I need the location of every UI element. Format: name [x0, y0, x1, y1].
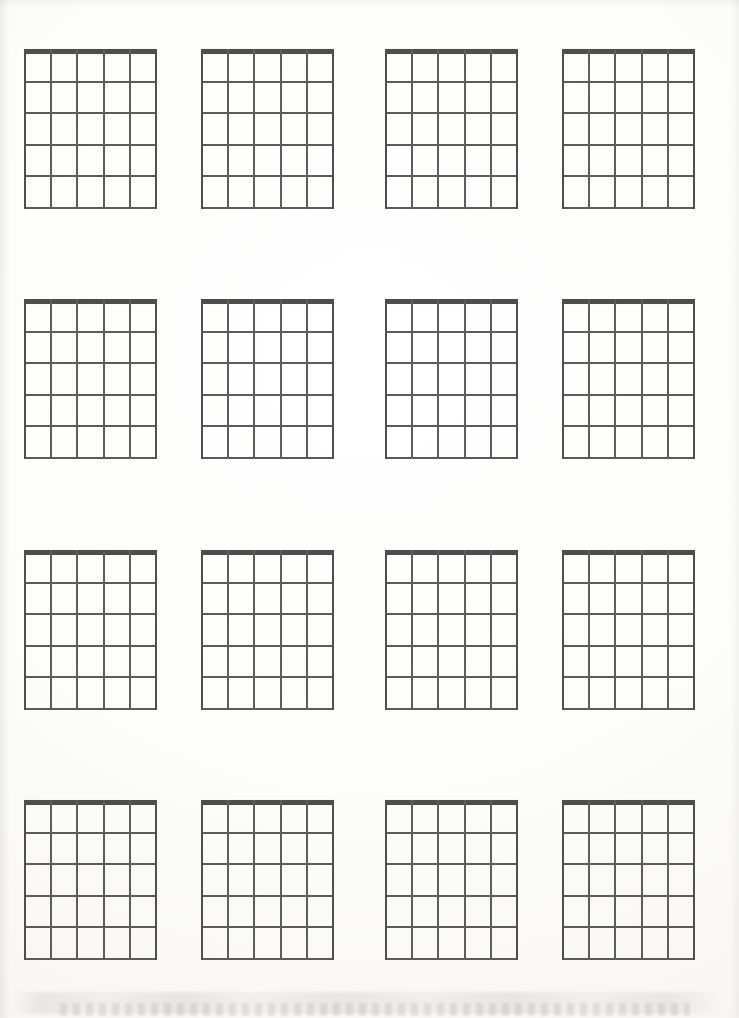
chord-diagram[interactable] [385, 550, 518, 710]
chord-string-line [588, 49, 590, 209]
chord-string-line [385, 49, 387, 209]
chord-string-line [332, 550, 334, 710]
chord-string-line [280, 800, 282, 960]
chord-diagram[interactable] [562, 49, 695, 209]
chord-string-line [24, 550, 26, 710]
chord-string-line [103, 299, 105, 459]
chord-diagram[interactable] [24, 299, 157, 459]
chord-diagram[interactable] [24, 800, 157, 960]
chord-string-line [411, 800, 413, 960]
chord-fret-line [24, 863, 157, 865]
chord-string-line [588, 550, 590, 710]
chord-string-line [24, 49, 26, 209]
chord-fret-line [385, 676, 518, 678]
chord-fret-line [201, 207, 334, 209]
chord-fret-line [201, 645, 334, 647]
chord-diagram[interactable] [385, 800, 518, 960]
chord-fret-line [562, 175, 695, 177]
chord-diagram[interactable] [24, 49, 157, 209]
chord-fret-line [385, 112, 518, 114]
chord-string-line [201, 49, 203, 209]
chord-fret-line [24, 331, 157, 333]
chord-nut [385, 550, 518, 555]
chord-string-line [437, 49, 439, 209]
chord-chart-grid [0, 0, 739, 1018]
chord-string-line [667, 299, 669, 459]
chord-fret-line [24, 362, 157, 364]
chord-fret-line [562, 457, 695, 459]
chord-fret-line [385, 425, 518, 427]
chord-string-line [437, 800, 439, 960]
chord-fret-line [562, 207, 695, 209]
chord-fret-line [24, 144, 157, 146]
chord-nut [562, 299, 695, 304]
chord-fret-line [24, 926, 157, 928]
chord-fret-line [385, 613, 518, 615]
chord-string-line [464, 299, 466, 459]
chord-diagram[interactable] [562, 800, 695, 960]
chord-nut [562, 49, 695, 54]
chord-string-line [129, 800, 131, 960]
chord-string-line [614, 299, 616, 459]
chord-diagram[interactable] [201, 550, 334, 710]
chord-string-line [155, 49, 157, 209]
chord-fret-line [201, 958, 334, 960]
chord-string-line [201, 550, 203, 710]
chord-fret-line [24, 112, 157, 114]
chord-string-line [76, 800, 78, 960]
chord-string-line [437, 550, 439, 710]
chord-string-line [306, 550, 308, 710]
chord-fret-line [562, 425, 695, 427]
chord-string-line [490, 49, 492, 209]
chord-string-line [693, 800, 695, 960]
chord-string-line [332, 800, 334, 960]
chord-fret-line [562, 958, 695, 960]
chord-string-line [103, 800, 105, 960]
chord-diagram[interactable] [385, 49, 518, 209]
chord-fret-line [562, 81, 695, 83]
chord-nut [385, 49, 518, 54]
chord-string-line [667, 550, 669, 710]
chord-diagram[interactable] [201, 299, 334, 459]
chord-string-line [129, 299, 131, 459]
chord-string-line [385, 550, 387, 710]
chord-fret-line [385, 394, 518, 396]
chord-string-line [464, 49, 466, 209]
chord-fret-line [562, 832, 695, 834]
chord-string-line [516, 550, 518, 710]
chord-diagram[interactable] [562, 550, 695, 710]
chord-string-line [253, 299, 255, 459]
chord-fret-line [385, 81, 518, 83]
chord-diagram[interactable] [24, 550, 157, 710]
chord-fret-line [24, 425, 157, 427]
chord-string-line [332, 299, 334, 459]
chord-diagram[interactable] [385, 299, 518, 459]
chord-string-line [280, 550, 282, 710]
chord-fret-line [201, 112, 334, 114]
chord-fret-line [562, 613, 695, 615]
chord-string-line [641, 550, 643, 710]
chord-fret-line [385, 863, 518, 865]
chord-string-line [385, 800, 387, 960]
chord-nut [385, 800, 518, 805]
chord-fret-line [562, 645, 695, 647]
chord-fret-line [201, 457, 334, 459]
chord-diagram[interactable] [562, 299, 695, 459]
chord-fret-line [562, 895, 695, 897]
chord-fret-line [24, 676, 157, 678]
chord-fret-line [201, 394, 334, 396]
chord-nut [24, 49, 157, 54]
chord-diagram[interactable] [201, 800, 334, 960]
chord-string-line [76, 550, 78, 710]
chord-fret-line [201, 331, 334, 333]
chord-string-line [129, 550, 131, 710]
chord-string-line [155, 299, 157, 459]
chord-fret-line [201, 144, 334, 146]
chord-fret-line [385, 144, 518, 146]
chord-string-line [76, 49, 78, 209]
chord-fret-line [562, 362, 695, 364]
chord-nut [24, 800, 157, 805]
chord-nut [562, 550, 695, 555]
chord-diagram[interactable] [201, 49, 334, 209]
chord-string-line [562, 550, 564, 710]
